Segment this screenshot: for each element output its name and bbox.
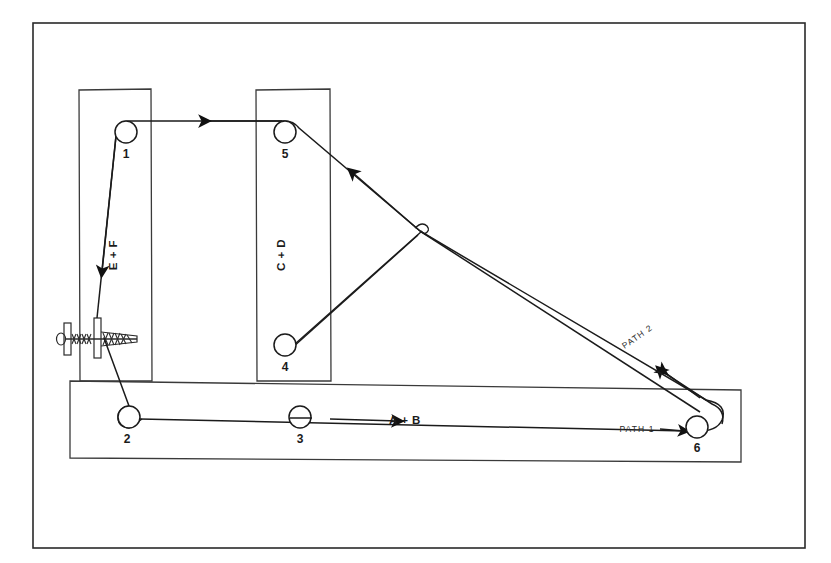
- pulley-5[interactable]: [274, 121, 296, 143]
- segment-label-cd: C + D: [275, 239, 287, 271]
- cable-pulley1-top-wrap: [116, 121, 282, 134]
- cable-anchor-to-pulley2: [104, 338, 129, 406]
- diagram-root: 1 2 3 4 5 6 E + F C + D A + B PATH 1 PAT…: [0, 0, 831, 563]
- segment-label-ab: A + B: [389, 414, 421, 426]
- pulley-label-2: 2: [124, 432, 131, 446]
- pulley-3[interactable]: [289, 406, 311, 428]
- pulley-6[interactable]: [686, 416, 708, 438]
- cable-ab-direction-arrow: [330, 419, 398, 421]
- pulley-2[interactable]: [118, 406, 140, 428]
- cable-pulley5-to-junction: [282, 121, 420, 231]
- pulley-label-3: 3: [297, 432, 304, 446]
- pulley-label-6: 6: [694, 441, 701, 455]
- pulley-label-5: 5: [282, 147, 289, 161]
- outer-frame-border: [33, 23, 805, 548]
- cable-cd-strand-b: [295, 231, 422, 344]
- turnbuckle-anchor-assembly: [57, 318, 138, 358]
- pulley-1[interactable]: [115, 121, 137, 143]
- cable-diagonal-up-arrow: [352, 172, 420, 231]
- segment-label-ef: E + F: [107, 240, 119, 270]
- pulley-group: [115, 121, 708, 438]
- cable-routing-diagram: 1 2 3 4 5 6 E + F C + D A + B PATH 1 PAT…: [0, 0, 831, 563]
- cable-path2-descending: [420, 231, 700, 412]
- path-label-1: PATH 1: [619, 424, 654, 434]
- pulley-label-1: 1: [123, 147, 130, 161]
- path-label-2: PATH 2: [620, 322, 654, 350]
- pulley-label-4: 4: [282, 360, 289, 374]
- pulley-4[interactable]: [274, 334, 296, 356]
